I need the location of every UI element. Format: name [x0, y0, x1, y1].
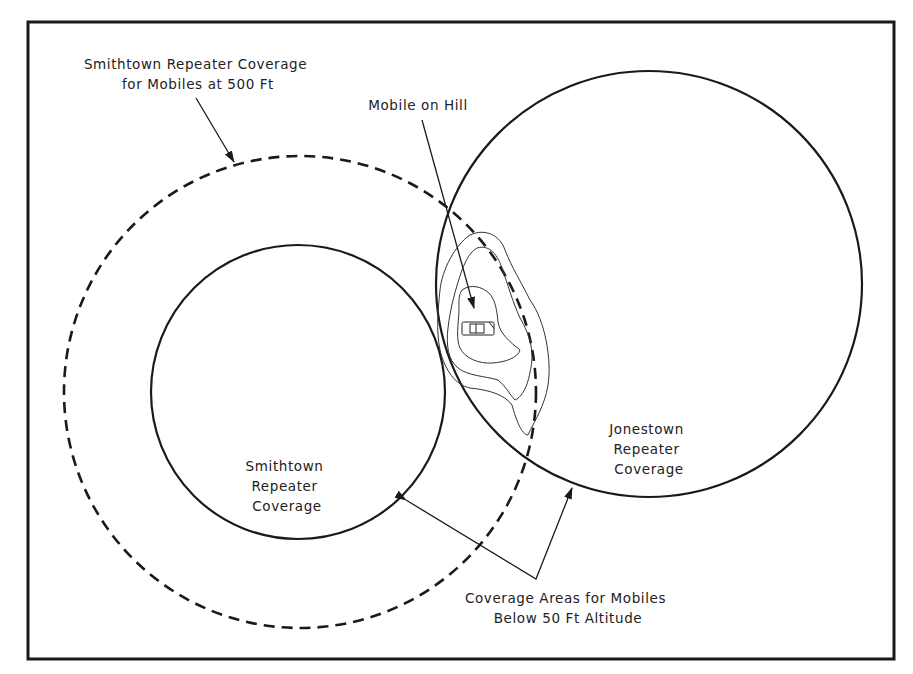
- coverage-diagram: Smithtown Repeater Coverage for Mobiles …: [0, 0, 913, 674]
- smithtown-coverage-circle: [151, 245, 445, 539]
- mobile-on-hill-arrow: [422, 120, 474, 308]
- smithtown-coverage-label: Smithtown Repeater Coverage: [246, 458, 329, 514]
- jonestown-coverage-label: Jonestown Repeater Coverage: [608, 421, 689, 477]
- mobile-on-hill-label: Mobile on Hill: [368, 97, 468, 113]
- diagram-frame: [28, 22, 894, 659]
- hill-contour-inner: [458, 287, 520, 364]
- smithtown-500ft-label: Smithtown Repeater Coverage for Mobiles …: [84, 56, 312, 92]
- hill-contours: [438, 232, 549, 435]
- coverage-below-50ft-label: Coverage Areas for Mobiles Below 50 Ft A…: [465, 590, 671, 626]
- car-icon: [462, 322, 494, 335]
- hill-contour-outer: [438, 232, 549, 435]
- smithtown-500ft-arrow: [196, 98, 234, 162]
